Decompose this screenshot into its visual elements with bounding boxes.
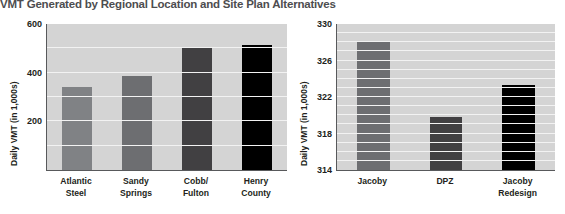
gridline bbox=[337, 123, 555, 124]
y-tick-label-right-330: 330 bbox=[317, 19, 332, 29]
x-tick-label-line: Jacoby bbox=[336, 176, 409, 188]
bar-series-left bbox=[47, 24, 287, 170]
x-tick-label-line: Jacoby bbox=[481, 176, 554, 188]
x-tick-label-left-0: AtlanticSteel bbox=[46, 176, 106, 199]
gridline bbox=[337, 105, 555, 106]
gridline bbox=[337, 96, 555, 97]
y-tick-label-right-322: 322 bbox=[317, 92, 332, 102]
x-tick-label-line: Sandy bbox=[106, 176, 166, 188]
bar-left-1 bbox=[122, 76, 152, 170]
gridline bbox=[337, 142, 555, 143]
x-tick-label-line: DPZ bbox=[409, 176, 482, 188]
x-tick-label-right-2: JacobyRedesign bbox=[481, 176, 554, 199]
gridline bbox=[47, 72, 287, 73]
gridline bbox=[47, 145, 287, 146]
bar-left-2 bbox=[182, 47, 212, 170]
plot-area-left bbox=[46, 24, 287, 171]
bar-left-0 bbox=[62, 87, 92, 170]
plot-area-right bbox=[336, 24, 555, 171]
x-tick-label-line: Steel bbox=[46, 188, 106, 200]
x-tick-label-right-1: DPZ bbox=[409, 176, 482, 199]
x-tick-label-right-0: Jacoby bbox=[336, 176, 409, 199]
y-axis-ticks-left: 200400600 bbox=[0, 18, 46, 170]
gridline bbox=[47, 47, 287, 48]
gridline bbox=[337, 69, 555, 70]
x-tick-label-left-1: SandySprings bbox=[106, 176, 166, 199]
page-title: VMT Generated by Regional Location and S… bbox=[0, 0, 565, 10]
y-tick-label-left-400: 400 bbox=[27, 68, 42, 78]
x-tick-label-line: County bbox=[226, 188, 286, 200]
x-axis-labels-left: AtlanticSteelSandySpringsCobb/FultonHenr… bbox=[46, 176, 286, 199]
x-tick-label-left-2: Cobb/Fulton bbox=[166, 176, 226, 199]
gridline bbox=[337, 41, 555, 42]
gridline bbox=[337, 60, 555, 61]
bar-right-1 bbox=[430, 117, 463, 170]
gridline bbox=[47, 120, 287, 121]
gridline bbox=[47, 96, 287, 97]
y-tick-label-right-314: 314 bbox=[317, 165, 332, 175]
x-tick-label-line: Redesign bbox=[481, 188, 554, 200]
x-tick-label-left-3: HenryCounty bbox=[226, 176, 286, 199]
x-tick-label-line: Henry bbox=[226, 176, 286, 188]
x-tick-label-line: Cobb/ bbox=[166, 176, 226, 188]
gridline bbox=[337, 160, 555, 161]
y-tick-label-right-318: 318 bbox=[317, 129, 332, 139]
gridline bbox=[337, 87, 555, 88]
y-tick-label-left-600: 600 bbox=[27, 19, 42, 29]
y-tick-label-right-326: 326 bbox=[317, 56, 332, 66]
x-tick-label-line: Springs bbox=[106, 188, 166, 200]
gridline bbox=[337, 133, 555, 134]
y-axis-ticks-right: 314318322326330 bbox=[290, 18, 336, 170]
gridline bbox=[337, 114, 555, 115]
chart-figure: VMT Generated by Regional Location and S… bbox=[0, 0, 565, 214]
gridline bbox=[337, 78, 555, 79]
gridline bbox=[337, 50, 555, 51]
x-tick-label-line: Fulton bbox=[166, 188, 226, 200]
bar-right-2 bbox=[502, 85, 535, 170]
bar-series-right bbox=[337, 24, 555, 170]
gridline bbox=[337, 32, 555, 33]
y-tick-label-left-200: 200 bbox=[27, 116, 42, 126]
gridline bbox=[337, 151, 555, 152]
x-tick-label-line: Atlantic bbox=[46, 176, 106, 188]
x-axis-labels-right: JacobyDPZJacobyRedesign bbox=[336, 176, 554, 199]
bar-left-3 bbox=[242, 45, 272, 170]
